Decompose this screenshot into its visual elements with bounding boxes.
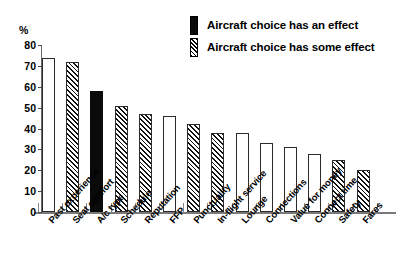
y-axis-tick-label-60: 60 xyxy=(14,81,36,93)
y-axis-tick-label-80: 80 xyxy=(14,39,36,51)
y-axis-tick-label-70: 70 xyxy=(14,60,36,72)
y-axis-tick-mark-80 xyxy=(38,45,42,46)
y-axis-tick-label-20: 20 xyxy=(14,164,36,176)
bar xyxy=(42,58,55,212)
y-axis-tick-label-30: 30 xyxy=(14,143,36,155)
y-axis-unit-label: % xyxy=(19,24,28,36)
y-axis-tick-label-40: 40 xyxy=(14,123,36,135)
y-axis-tick-label-10: 10 xyxy=(14,185,36,197)
y-axis-tick-label-50: 50 xyxy=(14,102,36,114)
y-axis-tick-mark-0 xyxy=(38,212,42,213)
bar xyxy=(187,124,200,212)
y-axis-tick-label-0: 0 xyxy=(14,206,36,218)
plot-area: % 01020304050607080 Past experienceSeat … xyxy=(0,0,410,272)
x-axis-tick-mark xyxy=(38,203,39,212)
bar-chart: Aircraft choice has an effect Aircraft c… xyxy=(0,0,410,272)
